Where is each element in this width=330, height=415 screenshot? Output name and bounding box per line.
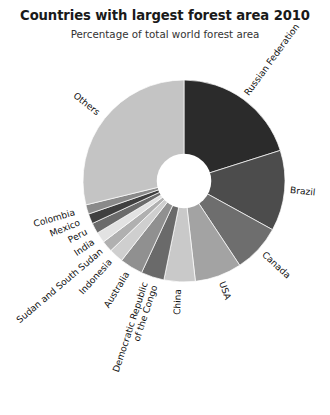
label-china: China xyxy=(173,289,184,315)
donut-svg xyxy=(0,0,330,415)
donut-chart: Russian FederationBrazilCanadaUSAChinaDe… xyxy=(0,0,330,415)
donut-hole xyxy=(157,154,212,209)
chart-page: Countries with largest forest area 2010 … xyxy=(0,0,330,415)
